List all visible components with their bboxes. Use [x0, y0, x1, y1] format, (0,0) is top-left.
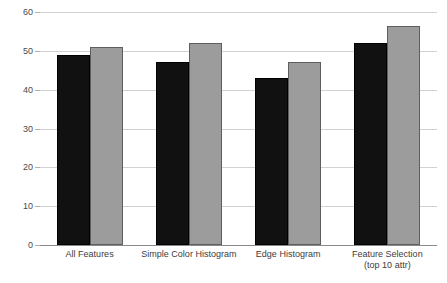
y-tick-label: 50 [23, 46, 33, 55]
bar-series-a-1 [156, 62, 189, 245]
x-axis-labels: All FeaturesSimple Color HistogramEdge H… [40, 249, 437, 283]
x-axis-label-0: All Features [40, 249, 139, 260]
y-tick-label: 60 [23, 8, 33, 17]
y-tick-label: 20 [23, 163, 33, 172]
bar-series-b-3 [387, 26, 420, 245]
bar-chart: 0102030405060 All FeaturesSimple Color H… [0, 0, 447, 283]
x-axis-label-line: Edge Histogram [256, 249, 321, 259]
x-axis-label-line: Simple Color Histogram [141, 249, 236, 259]
x-axis-label-2: Edge Histogram [239, 249, 338, 260]
x-axis-label-3: Feature Selection(top 10 attr) [338, 249, 437, 271]
x-axis-label-line: (top 10 attr) [338, 260, 437, 271]
bars-layer [40, 12, 437, 245]
y-tick-mark [35, 245, 40, 246]
x-axis-label-1: Simple Color Histogram [139, 249, 238, 260]
bar-series-b-1 [189, 43, 222, 245]
bar-series-b-2 [288, 62, 321, 245]
y-tick-label: 40 [23, 85, 33, 94]
y-tick-label: 10 [23, 202, 33, 211]
x-axis-label-line: All Features [66, 249, 114, 259]
bar-series-b-0 [90, 47, 123, 245]
y-tick-label: 30 [23, 124, 33, 133]
plot-area: 0102030405060 [40, 12, 437, 245]
x-axis-label-line: Feature Selection [352, 249, 423, 259]
gridline-0 [40, 245, 437, 246]
bar-series-a-2 [255, 78, 288, 245]
bar-series-a-3 [354, 43, 387, 245]
bar-series-a-0 [57, 55, 90, 245]
y-tick-label: 0 [28, 241, 33, 250]
